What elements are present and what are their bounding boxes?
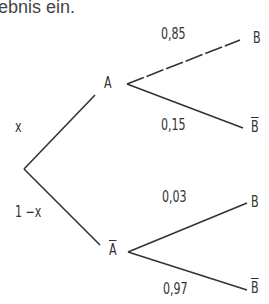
prob-0-15: 0,15 bbox=[161, 118, 186, 133]
prob-x: x bbox=[15, 120, 22, 135]
node-B-bar-bottom: B bbox=[251, 281, 259, 296]
node-B-bottom: B bbox=[251, 195, 259, 210]
prob-0-97: 0,97 bbox=[163, 282, 188, 297]
prob-0-85: 0,85 bbox=[161, 27, 186, 42]
edge-root-A bbox=[24, 95, 95, 169]
node-A-bar: A bbox=[109, 243, 117, 258]
node-A: A bbox=[104, 76, 112, 91]
edge-Abar-B bbox=[128, 203, 247, 252]
prob-1-minus-x: 1 −x bbox=[15, 205, 41, 220]
node-B-bar-top: B bbox=[251, 120, 259, 135]
node-B-top: B bbox=[253, 31, 261, 46]
probability-tree-lines bbox=[0, 0, 269, 304]
prob-0-03: 0,03 bbox=[162, 190, 187, 205]
edge-A-B bbox=[127, 40, 240, 84]
